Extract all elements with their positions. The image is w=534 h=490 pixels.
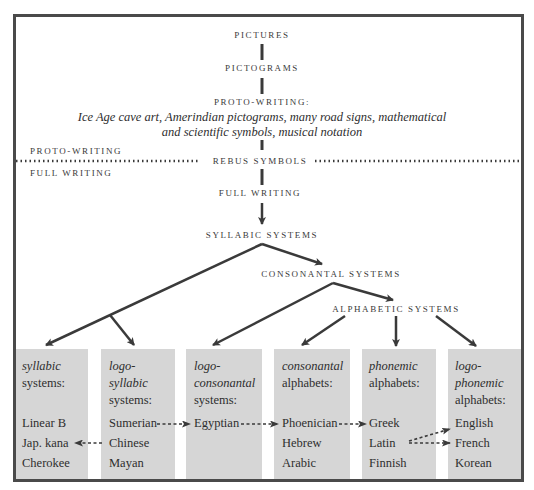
influence-arrows xyxy=(0,0,534,490)
